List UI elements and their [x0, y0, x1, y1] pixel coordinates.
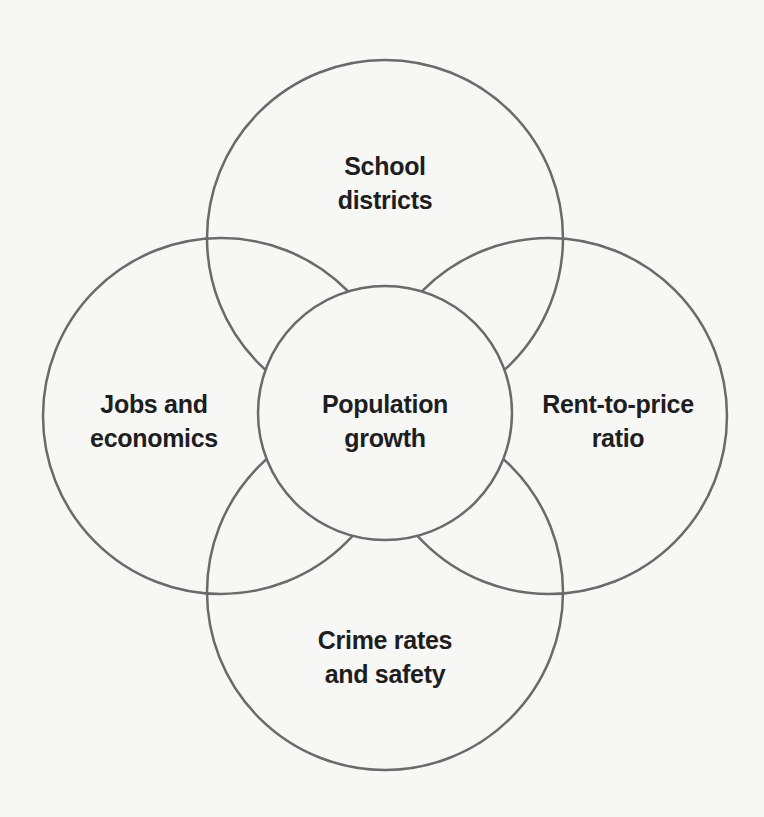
label-school-districts: School districts: [338, 149, 433, 217]
label-jobs-economics: Jobs and economics: [90, 387, 218, 455]
label-population-growth: Population growth: [322, 387, 448, 455]
label-rent-to-price: Rent-to-price ratio: [542, 387, 694, 455]
label-crime-safety: Crime rates and safety: [318, 623, 452, 691]
